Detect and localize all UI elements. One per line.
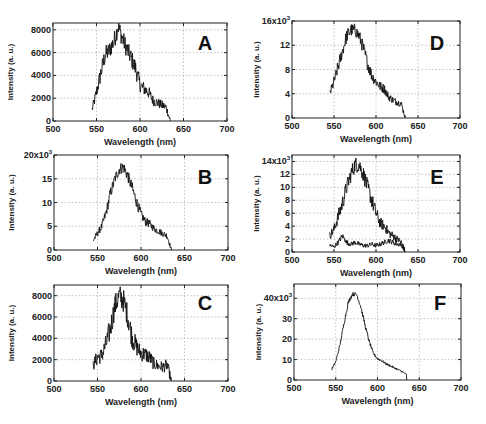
y-axis-label: Intensity (a. u.) xyxy=(252,175,261,232)
x-tick-label: 700 xyxy=(220,384,235,394)
x-axis-label: Wavelength (nm) xyxy=(340,134,412,144)
y-tick-label: 2 xyxy=(285,234,290,244)
chart-panel-f: 500550600650700010203040x103Wavelength (… xyxy=(254,284,469,406)
y-tick-label: 8000 xyxy=(32,291,52,301)
y-tick-label: 8 xyxy=(285,65,290,75)
chart-panel-b: 50055060065070005101520x103Wavelength (n… xyxy=(7,149,236,276)
x-tick-label: 600 xyxy=(132,124,147,134)
y-tick-label: 5 xyxy=(47,221,52,231)
y-tick-label: 4000 xyxy=(32,333,52,343)
y-tick-label: 12 xyxy=(280,169,290,179)
x-axis-label: Wavelength (nm) xyxy=(104,137,176,147)
x-tick-label: 550 xyxy=(89,124,104,134)
x-tick-label: 650 xyxy=(410,255,425,265)
y-axis-label: Intensity (a. u.) xyxy=(7,174,16,231)
y-tick-label: 4 xyxy=(285,89,290,99)
x-tick-label: 650 xyxy=(177,253,192,263)
y-tick-label: 6000 xyxy=(32,312,52,322)
y-axis-label: Intensity (a. u.) xyxy=(252,41,261,98)
y-tick-label: 4000 xyxy=(31,70,51,80)
x-tick-label: 600 xyxy=(133,253,148,263)
y-tick-label: 30 xyxy=(282,314,292,324)
x-axis-label: Wavelength (nm) xyxy=(340,268,412,278)
panel-letter: B xyxy=(198,166,212,188)
x-tick-label: 550 xyxy=(328,383,343,393)
y-tick-label: 8 xyxy=(285,195,290,205)
y-tick-label: 12 xyxy=(280,40,290,50)
x-tick-label: 650 xyxy=(410,121,425,131)
x-tick-label: 600 xyxy=(370,383,385,393)
y-tick-label: 10 xyxy=(42,198,52,208)
spectrum-trace xyxy=(332,292,407,380)
x-tick-label: 700 xyxy=(452,255,467,265)
chart-panel-d: 5005506006507000481216x103Wavelength (nm… xyxy=(252,15,468,144)
y-tick-label: 6000 xyxy=(31,48,51,58)
y-tick-label: 4 xyxy=(285,221,290,231)
x-tick-label: 550 xyxy=(326,255,341,265)
y-tick-label: 0 xyxy=(287,375,292,385)
y-tick-label: 10 xyxy=(282,355,292,365)
chart-panel-e: 50055060065070002468101214x103Wavelength… xyxy=(252,155,468,278)
x-tick-label: 550 xyxy=(326,121,341,131)
y-tick-label: 40x103 xyxy=(264,292,293,303)
y-axis-label: Intensity (a. u.) xyxy=(6,43,15,100)
x-tick-label: 700 xyxy=(453,383,468,393)
y-tick-label: 10 xyxy=(280,182,290,192)
x-tick-label: 600 xyxy=(368,121,383,131)
x-tick-label: 550 xyxy=(90,253,105,263)
panel-letter: D xyxy=(430,32,444,54)
spectrum-trace xyxy=(93,164,171,250)
chart-panel-a: 50055060065070002000400060008000Waveleng… xyxy=(6,23,235,147)
x-tick-label: 650 xyxy=(412,383,427,393)
y-tick-label: 16x103 xyxy=(262,15,291,26)
x-tick-label: 700 xyxy=(220,253,235,263)
x-tick-label: 700 xyxy=(219,124,234,134)
y-tick-label: 0 xyxy=(285,247,290,257)
y-tick-label: 0 xyxy=(47,245,52,255)
y-tick-label: 8000 xyxy=(31,25,51,35)
x-tick-label: 600 xyxy=(133,384,148,394)
y-axis-label: Intensity (a. u.) xyxy=(254,303,263,360)
y-tick-label: 0 xyxy=(46,116,51,126)
y-tick-label: 14x103 xyxy=(262,155,291,166)
panel-letter: F xyxy=(434,292,446,314)
x-tick-label: 650 xyxy=(176,124,191,134)
x-axis-label: Wavelength (nm) xyxy=(105,266,177,276)
y-tick-label: 0 xyxy=(285,113,290,123)
x-tick-label: 600 xyxy=(368,255,383,265)
y-axis-label: Intensity (a. u.) xyxy=(7,304,16,361)
spectrum-trace xyxy=(93,287,171,381)
panel-letter: A xyxy=(198,32,212,54)
y-tick-label: 6 xyxy=(285,208,290,218)
spectrum-trace xyxy=(92,23,170,121)
chart-panel-c: 50055060065070002000400060008000Waveleng… xyxy=(7,285,236,407)
y-tick-label: 15 xyxy=(42,174,52,184)
figure-canvas: 50055060065070002000400060008000Waveleng… xyxy=(0,0,486,424)
x-axis-label: Wavelength (nm) xyxy=(341,396,413,406)
y-tick-label: 2000 xyxy=(32,355,52,365)
spectrum-trace xyxy=(330,235,406,252)
x-tick-label: 550 xyxy=(90,384,105,394)
panel-letter: E xyxy=(430,166,443,188)
y-tick-label: 0 xyxy=(47,376,52,386)
x-axis-label: Wavelength (nm) xyxy=(105,397,177,407)
y-tick-label: 20 xyxy=(282,334,292,344)
y-tick-label: 20x103 xyxy=(24,149,53,160)
x-tick-label: 700 xyxy=(452,121,467,131)
panel-letter: C xyxy=(198,292,212,314)
x-tick-label: 650 xyxy=(177,384,192,394)
spectrum-trace xyxy=(330,24,406,118)
y-tick-label: 2000 xyxy=(31,93,51,103)
